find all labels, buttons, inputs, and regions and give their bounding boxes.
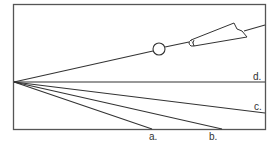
incident-ray-mid bbox=[165, 42, 189, 47]
label-c: c. bbox=[254, 101, 262, 112]
flashlight-icon bbox=[189, 23, 247, 46]
label-b: b. bbox=[209, 131, 217, 142]
incident-ray-top bbox=[244, 25, 265, 31]
label-a: a. bbox=[149, 131, 157, 142]
ray-c bbox=[14, 82, 265, 113]
ball-icon bbox=[153, 43, 165, 55]
ray-diagram: d. c. a. b. bbox=[0, 0, 278, 148]
incident-ray bbox=[14, 51, 153, 82]
ray-b bbox=[14, 82, 222, 129]
ray-a bbox=[14, 82, 152, 129]
label-d: d. bbox=[253, 71, 261, 82]
